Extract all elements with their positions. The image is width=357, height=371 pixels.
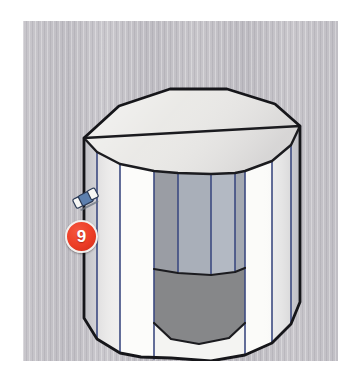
figure-root: 9 (0, 0, 357, 371)
eraser-icon[interactable] (71, 187, 101, 213)
step-badge[interactable]: 9 (65, 220, 98, 253)
step-badge-label: 9 (77, 228, 86, 245)
photo-panel: 9 (23, 21, 338, 361)
